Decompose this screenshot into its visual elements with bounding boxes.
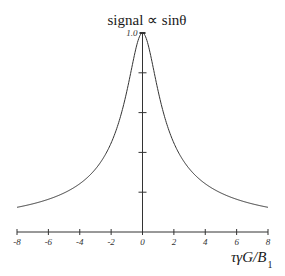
x-axis-label: τγG/B1: [231, 249, 272, 270]
x-tick-label: -6: [45, 237, 53, 247]
chart-title: signal ∝ sinθ: [107, 12, 186, 28]
x-tick-label: 4: [203, 237, 208, 247]
axes: -8-6-4-202468 1.0: [13, 28, 271, 247]
x-tick-label: -8: [13, 237, 21, 247]
x-axis-label-main: τγG/B: [231, 249, 266, 265]
x-tick-label: 8: [266, 237, 271, 247]
y-ticks: 1.0: [126, 28, 146, 192]
chart: signal ∝ sinθ -8-6-4-202468 1.0 τγG/B1: [0, 0, 285, 276]
x-axis-label-subscript: 1: [267, 259, 272, 270]
x-tick-label: 6: [234, 237, 239, 247]
x-tick-label: 2: [172, 237, 177, 247]
x-tick-label: -2: [107, 237, 115, 247]
x-tick-label: 0: [140, 237, 145, 247]
y-tick-label: 1.0: [126, 28, 138, 38]
x-tick-label: -4: [76, 237, 84, 247]
